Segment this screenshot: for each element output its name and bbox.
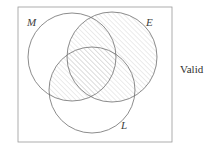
venn-diagram-figure: M E L Valid	[0, 0, 210, 150]
validity-annotation: Valid	[180, 64, 203, 75]
set-label-e: E	[146, 17, 153, 28]
set-label-m: M	[27, 17, 36, 28]
set-label-l: L	[121, 120, 127, 131]
